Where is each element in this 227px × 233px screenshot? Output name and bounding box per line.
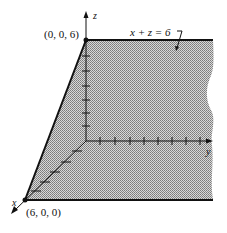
plane-equation-label: x + z = 6 — [130, 27, 171, 38]
point-label-6-0-0: (6, 0, 0) — [26, 207, 61, 218]
point-6-0-0 — [23, 198, 28, 203]
y-axis-label: y — [206, 147, 210, 157]
plane-region — [25, 40, 214, 200]
x-axis-label: x — [12, 198, 16, 208]
point-0-0-6 — [84, 38, 89, 43]
point-label-0-0-6: (0, 0, 6) — [44, 29, 79, 40]
plane-diagram — [0, 0, 227, 233]
z-axis-label: z — [93, 11, 97, 21]
